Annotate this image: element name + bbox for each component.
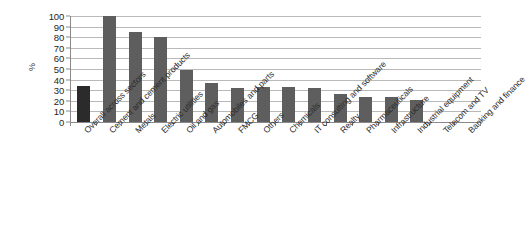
bar [308,88,321,122]
x-axis-tick-mark [96,122,97,126]
bar [231,88,244,122]
x-axis-tick-mark [378,122,379,126]
x-axis-tick-mark [224,122,225,126]
y-axis-tick-label: 50 [54,64,64,75]
y-axis-tick-label: 60 [54,53,64,64]
x-axis-tick-mark [173,122,174,126]
x-axis-tick-mark [121,122,122,126]
x-axis-tick-mark [403,122,404,126]
bar [103,16,116,122]
y-axis-tick-label: 100 [49,11,64,22]
x-axis-ticks [70,122,480,127]
x-axis-tick-mark [480,122,481,126]
x-axis-tick-mark [275,122,276,126]
y-axis-tick-label: 90 [54,21,64,32]
y-axis-tick-label: 20 [54,95,64,106]
x-axis-tick-mark [301,122,302,126]
bar [385,97,398,122]
y-axis: 0102030405060708090100 [0,16,70,122]
bar [129,32,142,122]
bar [77,86,90,122]
bar [205,83,218,122]
bar-series [71,16,481,122]
bar [154,37,167,122]
x-axis-tick-mark [429,122,430,126]
y-axis-tick-label: 40 [54,74,64,85]
plot-area [70,16,481,123]
bar [359,97,372,122]
x-axis-tick-mark [454,122,455,126]
x-axis-tick-mark [198,122,199,126]
bar [180,70,193,122]
x-axis-tick-mark [249,122,250,126]
y-axis-tick-label: 0 [59,117,64,128]
x-axis-tick-mark [147,122,148,126]
y-axis-tick-label: 30 [54,85,64,96]
x-axis-tick-mark [352,122,353,126]
bar [257,87,270,122]
x-axis-tick-mark [326,122,327,126]
y-axis-tick-label: 70 [54,42,64,53]
y-axis-tick-label: 80 [54,32,64,43]
x-axis-tick-mark [70,122,71,126]
y-axis-tick-label: 10 [54,106,64,117]
bar [282,87,295,122]
bar [334,94,347,122]
bar [410,100,423,122]
